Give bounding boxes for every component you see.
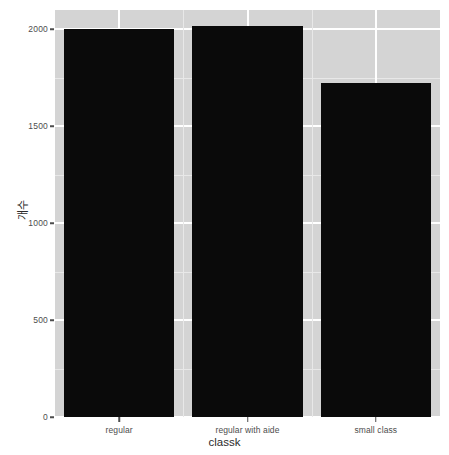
y-axis-title: 개수 [14, 200, 30, 220]
x-axis-tick-label: regular [106, 425, 133, 435]
x-axis-tick-label: small class [354, 425, 397, 435]
plot-panel [55, 10, 440, 417]
y-axis-tick-mark [50, 416, 54, 418]
y-axis-tick-mark [50, 126, 54, 128]
grid-line-minor-vertical [312, 10, 313, 417]
bar [64, 29, 174, 417]
y-axis-tick-label: 500 [33, 315, 48, 325]
x-axis-tick-mark [118, 417, 120, 422]
y-axis-tick-mark [50, 222, 54, 224]
bar-chart: 0500100015002000 regularregular with aid… [0, 0, 449, 455]
x-axis-tick-label: regular with aide [215, 425, 279, 435]
x-axis-tick-mark [247, 417, 249, 422]
y-axis-tick-label: 2000 [28, 24, 48, 34]
y-axis-tick-label: 1500 [28, 121, 48, 131]
x-axis-title: classk [0, 436, 449, 448]
y-axis-tick-mark [50, 319, 54, 321]
x-axis-tick-mark [375, 417, 377, 422]
bar [192, 26, 302, 417]
bar [321, 83, 431, 417]
y-axis-tick-label: 0 [43, 412, 48, 422]
y-axis-tick-label: 1000 [28, 218, 48, 228]
y-axis-tick-mark [50, 29, 54, 31]
grid-line-minor-vertical [183, 10, 184, 417]
